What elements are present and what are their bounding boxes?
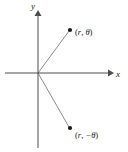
ray-to-lower-point xyxy=(38,73,69,127)
point-lower-label-theta: −θ xyxy=(85,130,95,140)
point-lower-marker xyxy=(68,126,72,130)
ray-to-upper-point xyxy=(38,31,69,73)
y-axis-label: y xyxy=(30,1,35,11)
point-lower-label: (r, −θ) xyxy=(75,130,98,140)
x-axis-label: x xyxy=(115,69,120,79)
x-axis-arrow-icon xyxy=(108,70,114,77)
point-upper-label: (r, θ) xyxy=(75,27,93,37)
point-upper-marker xyxy=(68,28,72,32)
y-axis-arrow-icon xyxy=(35,10,42,16)
point-upper-label-close: ) xyxy=(90,27,93,37)
polar-coordinates-figure: y x (r, θ) (r, −θ) xyxy=(0,0,128,152)
point-lower-label-close: ) xyxy=(95,130,98,140)
